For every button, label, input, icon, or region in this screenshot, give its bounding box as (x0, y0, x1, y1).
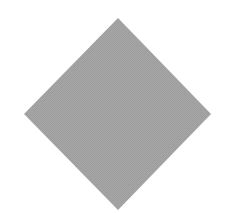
diagram-canvas (0, 0, 234, 213)
